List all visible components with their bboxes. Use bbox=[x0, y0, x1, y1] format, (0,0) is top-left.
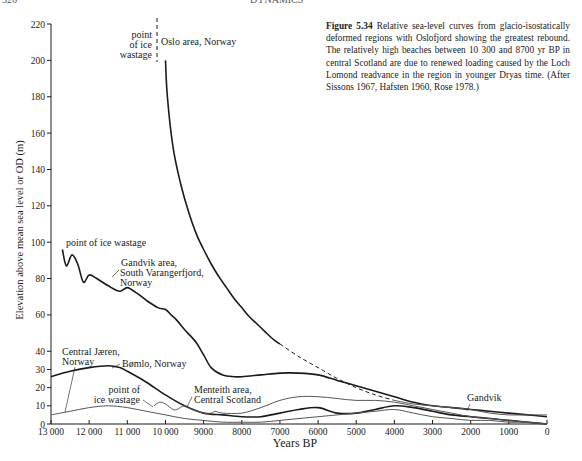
x-tick-label: 1000 bbox=[499, 427, 518, 437]
y-tick-label: 140 bbox=[31, 165, 46, 175]
x-tick-label: 8000 bbox=[232, 427, 251, 437]
x-tick-label: 9000 bbox=[194, 427, 213, 437]
y-tick-label: 60 bbox=[36, 310, 46, 320]
x-tick-label: 10 000 bbox=[152, 427, 178, 437]
y-tick-label: 160 bbox=[31, 129, 46, 139]
caption-text: Relative sea-level curves from glacio-is… bbox=[326, 21, 570, 92]
oslo-label: Oslo area, Norway bbox=[161, 36, 236, 47]
y-tick-label: 100 bbox=[31, 238, 46, 248]
x-axis-label: Years BP bbox=[273, 436, 318, 450]
y-tick-label: 20 bbox=[36, 383, 46, 393]
bomlo-label: Bømlo, Norway bbox=[122, 358, 186, 369]
x-tick-label: 12 000 bbox=[76, 427, 102, 437]
y-axis-label: Elevation above mean sea level or OD (m) bbox=[14, 140, 26, 320]
x-ticks: 13 00012 00011 00010 0009000800070006000… bbox=[38, 420, 550, 437]
x-tick-label: 3000 bbox=[423, 427, 442, 437]
x-tick-label: 11 000 bbox=[114, 427, 140, 437]
y-tick-label: 40 bbox=[36, 347, 46, 357]
x-tick-label: 2000 bbox=[461, 427, 480, 437]
gandvik-leader bbox=[112, 270, 119, 277]
y-tick-label: 10 bbox=[36, 401, 46, 411]
x-tick-label: 0 bbox=[545, 427, 550, 437]
menteith-wastage-leader bbox=[143, 400, 153, 407]
y-tick-label: 180 bbox=[31, 92, 46, 102]
y-tick-label: 200 bbox=[31, 56, 46, 66]
gandvik-short-label: Gandvik bbox=[467, 392, 501, 403]
jaeren-label-2: Norway bbox=[62, 356, 94, 367]
y-ticks: 0102030406080100120140160180200220 bbox=[31, 20, 51, 430]
x-tick-label: 4000 bbox=[385, 427, 404, 437]
gandvik-label-3: Norway bbox=[120, 277, 152, 288]
series-line-oslo-area-norway bbox=[166, 60, 280, 344]
gandvik-wastage-label: point of ice wastage bbox=[66, 237, 147, 248]
caption-label: Figure 5.34 bbox=[326, 21, 373, 31]
x-tick-label: 5000 bbox=[347, 427, 366, 437]
jaeren-leader bbox=[65, 367, 75, 412]
menteith-label-2: Central Scotland bbox=[194, 394, 261, 405]
y-tick-label: 80 bbox=[36, 274, 46, 284]
menteith-wastage-label-2: ice wastage bbox=[94, 394, 141, 405]
y-tick-label: 120 bbox=[31, 201, 46, 211]
oslo-wastage-label-3: wastage bbox=[120, 49, 153, 60]
y-tick-label: 30 bbox=[36, 365, 46, 375]
figure-caption: Figure 5.34 Relative sea-level curves fr… bbox=[326, 20, 570, 93]
x-tick-label: 13 000 bbox=[38, 427, 64, 437]
series-line-central-j-ren-norway bbox=[51, 406, 547, 424]
y-tick-label: 220 bbox=[31, 20, 46, 30]
menteith-leader bbox=[187, 397, 192, 407]
